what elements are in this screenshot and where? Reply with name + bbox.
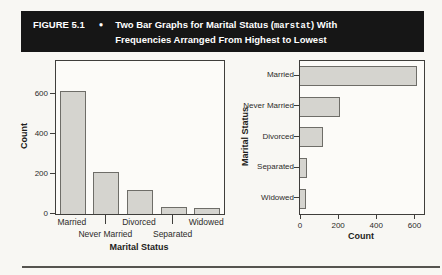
hbar-widowed	[300, 189, 306, 209]
y-axis-tick-200	[50, 173, 55, 174]
right-y-category-label-widowed: Widowed	[242, 193, 294, 203]
x-category-label-widowed: Widowed	[166, 218, 246, 228]
hbar-divorced	[300, 127, 323, 147]
y-axis-tick-600	[50, 93, 55, 94]
y-axis-tick-label-200: 200	[20, 169, 48, 178]
right-chart-x-axis-title: Count	[299, 231, 423, 241]
right-x-axis-tick-0	[300, 215, 301, 219]
y-axis-tick-400	[50, 133, 55, 134]
bar-widowed	[194, 208, 220, 214]
y-axis-tick-label-0: 0	[20, 209, 48, 218]
right-x-axis-tick-label-400: 400	[361, 221, 391, 230]
right-x-axis-tick-600	[414, 215, 415, 219]
right-y-category-label-separated: Separated	[242, 162, 294, 172]
bar-separated	[161, 207, 187, 214]
bottom-divider	[22, 266, 440, 268]
right-y-axis-tick-married	[294, 75, 299, 76]
right-y-category-label-married: Married	[242, 71, 294, 81]
figure-header: FIGURE 5.1 ● Two Bar Graphs for Marital …	[21, 11, 424, 52]
right-x-axis-tick-200	[338, 215, 339, 219]
x-category-label-separated: Separated	[133, 230, 213, 240]
title-text-prefix: Two Bar Graphs for Marital Status (	[115, 19, 274, 30]
right-y-category-label-divorced: Divorced	[242, 132, 294, 142]
bar-divorced	[127, 190, 153, 214]
right-y-axis-tick-widowed	[294, 197, 299, 198]
hbar-separated	[300, 158, 307, 178]
y-axis-tick-label-400: 400	[20, 129, 48, 138]
hbar-married	[300, 66, 417, 86]
bar-never-married	[93, 172, 119, 214]
right-y-axis-tick-divorced	[294, 136, 299, 137]
figure-title: Two Bar Graphs for Marital Status (marst…	[115, 18, 337, 47]
right-x-axis-tick-400	[376, 215, 377, 219]
figure-number: FIGURE 5.1	[33, 18, 85, 31]
right-x-axis-tick-label-600: 600	[399, 221, 429, 230]
bar-married	[60, 91, 86, 214]
hbar-never-married	[300, 97, 340, 117]
variable-name: marstat	[274, 21, 311, 31]
horizontal-bar-chart-plot-area	[299, 60, 425, 215]
bullet-icon: ●	[99, 18, 104, 31]
right-x-axis-tick-label-200: 200	[323, 221, 353, 230]
title-text-suffix: ) With	[311, 19, 337, 30]
figure-title-line1: Two Bar Graphs for Marital Status (marst…	[115, 18, 337, 33]
left-chart-x-axis-title: Marital Status	[55, 242, 223, 252]
vertical-bar-chart-plot-area	[55, 60, 225, 215]
right-y-axis-tick-separated	[294, 167, 299, 168]
right-y-axis-tick-never-married	[294, 105, 299, 106]
y-axis-tick-label-600: 600	[20, 89, 48, 98]
y-axis-tick-0	[50, 213, 55, 214]
right-y-category-label-never-married: Never Married	[242, 101, 294, 111]
figure-title-line2: Frequencies Arranged From Highest to Low…	[115, 33, 337, 47]
figure-5-1: FIGURE 5.1 ● Two Bar Graphs for Marital …	[0, 0, 442, 275]
right-x-axis-tick-label-0: 0	[285, 221, 315, 230]
